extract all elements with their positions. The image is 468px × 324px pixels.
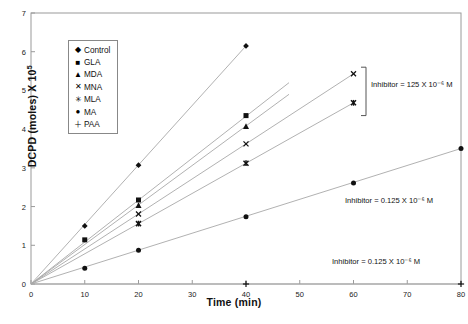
data-point-marker <box>244 214 249 219</box>
data-point-marker <box>82 266 87 271</box>
legend-item-mda: ▲ MDA <box>73 69 113 81</box>
y-axis-title-exponent: 5 <box>26 65 33 69</box>
legend-label-paa: PAA <box>84 120 100 129</box>
legend-label-ma: MA <box>84 108 96 117</box>
legend-item-mla: ✳ MLA <box>73 94 113 106</box>
data-point-marker <box>244 141 249 146</box>
figure-container: 0102030405060708001234567 DCPD (moles) X… <box>0 0 468 324</box>
y-axis-title: DCPD (moles) X 105 <box>26 36 39 196</box>
data-point-marker <box>136 221 141 227</box>
data-point-marker <box>136 248 141 253</box>
data-point-marker <box>351 180 356 185</box>
plus-icon: ＋ <box>73 121 83 129</box>
data-point-marker <box>136 211 141 216</box>
annotation-inhibitor-low-mid: Inhibitor = 0.125 X 10⁻⁶ M <box>345 196 433 205</box>
legend-label-mna: MNA <box>84 83 102 92</box>
y-tick-label: 0 <box>22 280 26 289</box>
data-point-marker <box>243 281 249 287</box>
circle-icon: ● <box>73 108 83 116</box>
annotation-bracket <box>361 67 366 115</box>
x-axis-title: Time (min) <box>0 296 468 308</box>
legend-label-control: Control <box>84 46 110 55</box>
data-point-marker <box>458 281 464 287</box>
data-point-marker <box>82 223 88 229</box>
data-point-marker <box>244 160 249 166</box>
triangle-icon: ▲ <box>73 71 83 79</box>
cross-icon: ✕ <box>73 83 83 91</box>
series-paa <box>31 281 464 287</box>
legend-item-ma: ● MA <box>73 106 113 118</box>
data-point-marker <box>82 237 87 242</box>
data-point-marker <box>459 146 464 151</box>
legend-item-gla: ■ GLA <box>73 56 113 68</box>
legend-label-mda: MDA <box>84 70 102 79</box>
annotation-inhibitor-high: Inhibitor = 125 X 10⁻⁶ M <box>371 80 453 89</box>
data-point-marker <box>351 100 356 106</box>
data-point-marker <box>244 113 249 118</box>
legend-item-mna: ✕ MNA <box>73 81 113 93</box>
data-point-marker <box>351 71 356 76</box>
legend-item-control: ◆ Control <box>73 44 113 56</box>
legend: ◆ Control ■ GLA ▲ MDA ✕ MNA ✳ MLA ● MA ＋… <box>68 40 118 134</box>
legend-label-mla: MLA <box>84 95 101 104</box>
data-point-marker <box>136 197 141 202</box>
y-tick-label: 2 <box>22 203 26 212</box>
legend-label-gla: GLA <box>84 58 100 67</box>
legend-item-paa: ＋ PAA <box>73 118 113 130</box>
annotation-inhibitor-low-bottom: Inhibitor = 0.125 X 10⁻⁶ M <box>332 257 420 266</box>
y-axis-title-text: DCPD (moles) X 10 <box>26 69 38 167</box>
y-tick-label: 1 <box>22 241 26 250</box>
star-icon: ✳ <box>73 96 83 104</box>
diamond-icon: ◆ <box>73 46 83 54</box>
square-icon: ■ <box>73 59 83 67</box>
y-tick-label: 7 <box>22 9 26 18</box>
